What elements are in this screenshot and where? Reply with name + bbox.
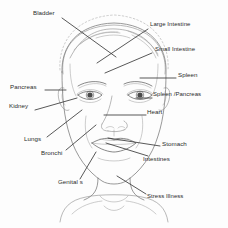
temple-left	[70, 64, 76, 96]
label-bronchi: Bronchi	[41, 149, 62, 156]
face-outline-group	[58, 15, 170, 222]
leader-line-intestines	[106, 143, 148, 156]
leader-line-small-intestine	[105, 53, 152, 73]
face-sketch-illustration: .sk { fill:none; stroke:#777; stroke-wid…	[0, 0, 228, 228]
diagram-canvas: .sk { fill:none; stroke:#777; stroke-wid…	[0, 0, 228, 228]
leader-line-stress-illness	[117, 176, 146, 194]
nostril-left	[106, 127, 114, 129]
eye-left	[77, 90, 103, 103]
label-bladder: Bladder	[33, 9, 55, 16]
leader-line-bladder	[62, 18, 116, 57]
label-large-intestine: Large Intestine	[150, 21, 190, 28]
hair-strand-3	[128, 31, 158, 54]
label-lungs: Lungs	[24, 135, 41, 142]
leader-lines-group	[35, 18, 176, 194]
hair-strand-5	[96, 35, 130, 38]
label-small-intestine: Small Intestine	[155, 46, 195, 53]
shoulder-fold-right	[126, 201, 156, 214]
eye-right	[127, 90, 153, 103]
leader-line-kidney	[35, 98, 77, 110]
cheek-left	[85, 116, 92, 148]
label-pancreas: Pancreas	[10, 83, 37, 90]
label-spleen-pancreas: Spleen /Pancreas	[153, 91, 201, 98]
nose-bridge	[102, 96, 112, 124]
collar-line	[100, 196, 128, 202]
nose-right-wing	[124, 121, 127, 130]
label-stomach: Stomach	[162, 140, 187, 147]
label-kidney: Kidney	[9, 102, 28, 109]
label-stress-illness: Stress Illness	[147, 193, 183, 200]
label-heart: Heart	[147, 108, 162, 115]
hair-strand-1	[74, 32, 118, 50]
label-intestines: Intestines	[143, 155, 170, 162]
nostril-right	[118, 127, 125, 129]
eyebrow-right-2	[124, 84, 151, 88]
ear-left-inner	[62, 92, 65, 105]
label-genitals: Genital s	[58, 178, 83, 185]
neck-hollow	[104, 206, 124, 211]
eyebrow-left-2	[79, 84, 106, 88]
shoulder-fold-left	[72, 201, 102, 214]
label-spleen: Spleen	[178, 71, 198, 78]
chin-crease	[98, 158, 130, 161]
hair-strand-2	[80, 32, 120, 44]
nose-base	[108, 130, 124, 132]
lip-line	[92, 143, 136, 145]
